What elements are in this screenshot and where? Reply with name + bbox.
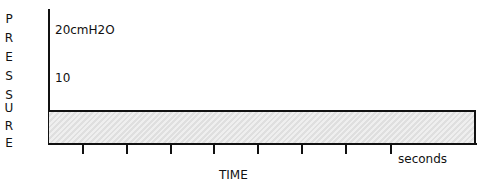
x-tick (301, 145, 303, 154)
y-label-letter: E (3, 51, 15, 63)
x-tick (213, 145, 215, 154)
y-label-letter: P (3, 13, 15, 25)
y-label-letter: S (3, 70, 15, 82)
y-tick-label-top: 20cmH2O (55, 23, 115, 37)
pressure-band (49, 110, 476, 143)
x-axis-label: TIME (219, 168, 248, 182)
y-label-letter: E (3, 137, 15, 149)
y-label-letter: S (3, 89, 15, 101)
x-tick (126, 145, 128, 154)
y-label-letter: U (3, 102, 15, 114)
x-tick (390, 145, 392, 154)
x-tick (82, 145, 84, 154)
y-label-letter: R (3, 120, 15, 132)
y-tick-label-mid: 10 (55, 71, 70, 85)
x-tick (170, 145, 172, 154)
x-axis-line (48, 143, 477, 145)
x-unit-label: seconds (398, 152, 447, 166)
x-tick (345, 145, 347, 154)
y-label-letter: R (3, 32, 15, 44)
x-tick (257, 145, 259, 154)
